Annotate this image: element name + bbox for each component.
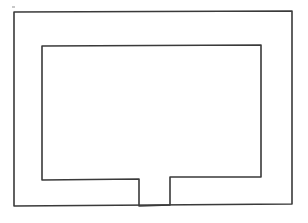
line-drawing-svg xyxy=(0,0,308,223)
stray-pencil-speck xyxy=(12,6,15,8)
drawing-canvas xyxy=(0,0,308,223)
